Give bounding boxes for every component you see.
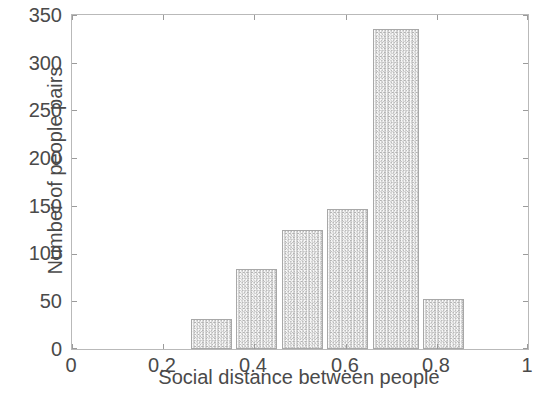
y-tick-mark-right <box>523 301 528 302</box>
histogram-bar[interactable] <box>282 230 323 349</box>
y-tick-mark-right <box>523 254 528 255</box>
y-tick-mark <box>72 254 77 255</box>
x-tick-mark <box>527 344 528 349</box>
x-axis-title: Social distance between people <box>71 366 527 389</box>
y-tick-mark <box>72 301 77 302</box>
plot-area <box>71 14 529 350</box>
x-tick-mark <box>72 344 73 349</box>
histogram-bar[interactable] <box>327 209 368 349</box>
x-tick-mark <box>437 344 438 349</box>
y-axis-title: Number of people pairs <box>44 11 67 331</box>
y-tick-mark <box>72 206 77 207</box>
histogram-bar[interactable] <box>423 299 464 349</box>
x-tick-mark <box>346 344 347 349</box>
x-tick-mark-top <box>346 15 347 20</box>
y-tick-mark-right <box>523 63 528 64</box>
histogram-bar[interactable] <box>191 319 232 349</box>
figure-canvas: 350 300 250 200 150 100 50 0 0 0.2 0.4 0… <box>0 0 537 393</box>
y-tick-mark-right <box>523 158 528 159</box>
y-tick-mark <box>72 158 77 159</box>
x-tick-mark-top <box>72 15 73 20</box>
x-tick-mark-top <box>527 15 528 20</box>
y-tick-mark-right <box>523 206 528 207</box>
histogram-bar[interactable] <box>373 29 419 349</box>
x-tick-mark <box>163 344 164 349</box>
x-tick-mark <box>254 344 255 349</box>
x-tick-mark-top <box>254 15 255 20</box>
y-tick-mark-right <box>523 110 528 111</box>
x-tick-mark-top <box>163 15 164 20</box>
plot-inner-surface <box>72 15 528 349</box>
y-tick-mark <box>72 63 77 64</box>
x-tick-mark-top <box>437 15 438 20</box>
histogram-bar[interactable] <box>236 269 277 349</box>
y-tick-mark <box>72 110 77 111</box>
